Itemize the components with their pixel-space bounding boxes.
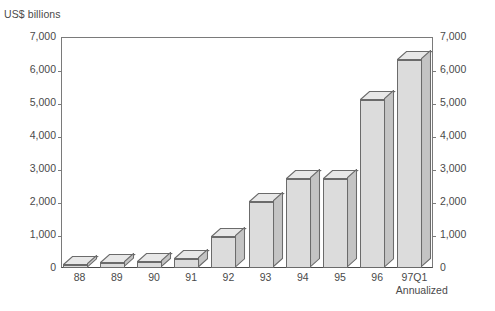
- y-axis-right-tick-label: 6,000: [440, 64, 466, 75]
- x-axis-tick-label: 92: [210, 271, 247, 284]
- y-axis-left-tick-label: 2,000: [8, 196, 56, 207]
- y-axis-left-tick-label: 1,000: [8, 229, 56, 240]
- y-axis-right-tick-label: 1,000: [440, 229, 466, 240]
- bar-slot: [210, 37, 247, 268]
- bar: [286, 171, 320, 268]
- bar-slot: [135, 37, 172, 268]
- bar: [137, 254, 171, 268]
- bar-front-face: [174, 259, 199, 268]
- bar-side-face: [198, 249, 209, 268]
- bar: [397, 52, 431, 268]
- y-axis-left-tick-label: 7,000: [8, 31, 56, 42]
- y-axis-left-tick-label: 4,000: [8, 130, 56, 141]
- bar-slot: [61, 37, 98, 268]
- y-axis-right-tick-label: 0: [440, 262, 446, 273]
- bar-side-face: [347, 169, 358, 268]
- bar-front-face: [360, 100, 385, 268]
- bar-side-face: [87, 255, 98, 268]
- x-axis-tick-label: 93: [247, 271, 284, 284]
- bar-slot: [173, 37, 210, 268]
- bar: [211, 229, 245, 268]
- bar-chart: US$ billions 01,0002,0003,0004,0005,0006…: [0, 0, 495, 311]
- y-axis-right-tick-label: 4,000: [440, 130, 466, 141]
- bar: [100, 255, 134, 268]
- bar-front-face: [249, 202, 274, 268]
- bar-front-face: [323, 179, 348, 268]
- y-axis-left-tick-label: 3,000: [8, 163, 56, 174]
- bar-side-face: [235, 227, 246, 268]
- bar: [63, 257, 97, 268]
- y-axis-left-tick-label: 6,000: [8, 64, 56, 75]
- y-axis-right-tick-label: 5,000: [440, 97, 466, 108]
- bar-front-face: [286, 179, 311, 268]
- y-axis-right-tick-label: 7,000: [440, 31, 466, 42]
- bar: [174, 251, 208, 268]
- bar-front-face: [211, 237, 236, 268]
- bar-slot: [321, 37, 358, 268]
- bar-side-face: [421, 50, 432, 268]
- x-axis-tick-label: 91: [173, 271, 210, 284]
- x-axis-labels: 88899091929394959697Q1Annualized: [61, 271, 433, 301]
- bar-side-face: [161, 252, 172, 268]
- bar-slot: [98, 37, 135, 268]
- bar: [323, 171, 357, 268]
- y-axis-right-tick-label: 3,000: [440, 163, 466, 174]
- y-axis-left-tick-label: 0: [8, 262, 56, 273]
- bar-side-face: [124, 253, 135, 268]
- bars-area: [61, 37, 433, 268]
- bar-front-face: [397, 60, 422, 268]
- bar-slot: [284, 37, 321, 268]
- x-axis-tick-label: 97Q1Annualized: [396, 271, 433, 297]
- axis-unit-caption: US$ billions: [4, 8, 61, 20]
- bar: [249, 194, 283, 268]
- x-axis-tick-label: 94: [284, 271, 321, 284]
- x-axis-tick-label: 89: [98, 271, 135, 284]
- bar-slot: [247, 37, 284, 268]
- y-axis-left-tick-label: 5,000: [8, 97, 56, 108]
- bar-slot: [359, 37, 396, 268]
- y-axis-left-labels: 01,0002,0003,0004,0005,0006,0007,000: [8, 37, 56, 268]
- x-axis-tick-sublabel: Annualized: [396, 284, 433, 297]
- x-axis-tick-label: 88: [61, 271, 98, 284]
- bar-side-face: [384, 90, 395, 268]
- x-axis-tick-label: 96: [359, 271, 396, 284]
- x-axis-tick-label: 95: [321, 271, 358, 284]
- y-axis-right-labels: 01,0002,0003,0004,0005,0006,0007,000: [440, 37, 490, 268]
- x-axis-tick-label: 90: [135, 271, 172, 284]
- y-axis-right-tick-label: 2,000: [440, 196, 466, 207]
- bar-slot: [396, 37, 433, 268]
- bar-side-face: [310, 169, 321, 268]
- bar-side-face: [273, 192, 284, 268]
- bar: [360, 92, 394, 268]
